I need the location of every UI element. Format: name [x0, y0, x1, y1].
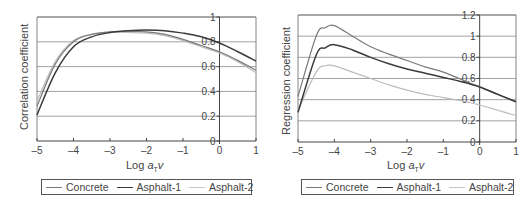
x-axis-title: Log aTv [387, 159, 424, 173]
legend-swatch-concrete [46, 187, 62, 188]
x-axis-title-prefix: Log [387, 159, 408, 171]
legend-item-asphalt-1: Asphalt-1 [377, 181, 441, 193]
x-tick-label: –4 [68, 145, 80, 156]
correlation-chart-panel: –5–4–3–2–10100.20.40.60.81 Correlation c… [0, 0, 265, 213]
series-line-asphalt-2 [298, 65, 516, 116]
x-tick-label: –5 [292, 146, 304, 157]
regression-chart-panel: –5–4–3–2–10100.20.40.60.811.2 Regression… [265, 0, 531, 213]
y-tick-label: 0 [210, 136, 216, 147]
x-tick-label: 0 [477, 146, 483, 157]
y-tick-label: 0.6 [202, 61, 216, 72]
y-tick-label: 0.4 [202, 86, 216, 97]
y-tick-label: 0.8 [462, 52, 476, 63]
legend-label: Concrete [326, 181, 369, 193]
series-line-concrete [37, 31, 256, 106]
legend-swatch-asphalt-1 [117, 187, 133, 188]
legend-label: Asphalt-1 [137, 181, 181, 193]
y-axis-title: Correlation coefficient [18, 24, 30, 130]
legend-label: Asphalt-2 [469, 181, 513, 193]
y-tick-label: 1.2 [462, 10, 476, 21]
legend-item-asphalt-2: Asphalt-2 [189, 181, 253, 193]
x-tick-label: 1 [253, 145, 259, 156]
x-tick-label: 0 [217, 145, 223, 156]
x-tick-label: –1 [177, 145, 189, 156]
legend: Concrete Asphalt-1 Asphalt-2 [301, 179, 514, 195]
y-tick-label: 0.2 [462, 115, 476, 126]
legend-swatch-concrete [306, 187, 322, 188]
y-axis-title: Regression coefficient [280, 27, 292, 135]
legend: Concrete Asphalt-1 Asphalt-2 [41, 179, 252, 195]
x-tick-label: –2 [141, 145, 153, 156]
legend-swatch-asphalt-2 [449, 187, 465, 188]
legend-item-asphalt-2: Asphalt-2 [449, 181, 513, 193]
legend-label: Concrete [66, 181, 109, 193]
legend-label: Asphalt-1 [397, 181, 441, 193]
y-tick-label: 1 [470, 31, 476, 42]
x-tick-label: –5 [31, 145, 43, 156]
x-axis-title: Log aTv [126, 159, 163, 173]
y-tick-label: 0 [470, 137, 476, 148]
legend-item-concrete: Concrete [306, 181, 369, 193]
x-tick-label: –3 [365, 146, 377, 157]
x-tick-label: –2 [401, 146, 413, 157]
x-axis-title-suffix: v [419, 159, 425, 171]
legend-swatch-asphalt-2 [189, 187, 205, 188]
legend-swatch-asphalt-1 [377, 187, 393, 188]
x-axis-title-suffix: v [158, 159, 164, 171]
legend-item-concrete: Concrete [46, 181, 109, 193]
x-tick-label: –4 [329, 146, 341, 157]
y-tick-label: 1 [210, 12, 216, 23]
x-axis-title-prefix: Log [126, 159, 147, 171]
x-tick-label: 1 [513, 146, 519, 157]
x-tick-label: –3 [104, 145, 116, 156]
y-tick-label: 0.2 [202, 111, 216, 122]
legend-label: Asphalt-2 [209, 181, 253, 193]
legend-item-asphalt-1: Asphalt-1 [117, 181, 181, 193]
x-tick-label: –1 [438, 146, 450, 157]
